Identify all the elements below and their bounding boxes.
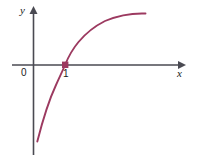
plot-canvas [0, 0, 200, 160]
origin-label: 0 [21, 68, 27, 78]
y-axis-arrowhead-icon [30, 6, 38, 14]
logarithm-function-graph: y x 0 1 [0, 0, 200, 160]
log-curve [37, 13, 145, 141]
x-tick-label-1: 1 [63, 69, 69, 79]
x-axis-label: x [177, 68, 182, 79]
y-axis-label: y [20, 5, 25, 16]
